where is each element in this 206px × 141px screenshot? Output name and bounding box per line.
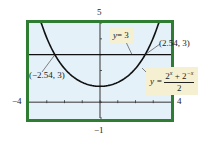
curve-eq-lhs: y =: [150, 77, 162, 86]
y-min-label: −1: [94, 126, 104, 135]
curve-denominator: 2: [164, 83, 194, 93]
x-max-label: 4: [177, 97, 182, 106]
x-min-label: −4: [12, 97, 22, 106]
curve-eq-fraction: 2x + 2−x 2: [164, 70, 194, 93]
intersection-right-label: (2.54, 3): [159, 39, 190, 48]
curve-num-plus: + 2: [173, 71, 187, 81]
intersection-left-label: (−2.54, 3): [29, 71, 65, 80]
y-max-label: 5: [97, 8, 102, 17]
line-eq-rhs: = 3: [117, 30, 129, 40]
curve-equation-callout: y = 2x + 2−x 2: [146, 67, 198, 95]
line-equation-callout: y= 3: [109, 28, 133, 43]
curve-exp-b: −x: [187, 70, 194, 76]
